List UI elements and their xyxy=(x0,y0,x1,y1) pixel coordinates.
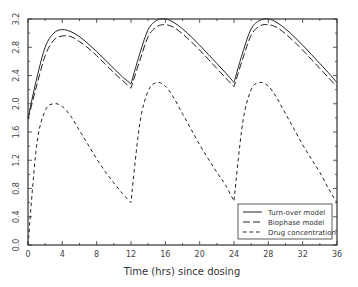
y-tick-label: 1.2 xyxy=(12,154,21,167)
y-tick-label: 2.4 xyxy=(12,69,21,82)
y-tick-label: 0.0 xyxy=(12,239,21,252)
x-tick-label: 16 xyxy=(160,250,170,259)
y-tick-label: 1.6 xyxy=(12,126,21,139)
legend-label: Turn-over model xyxy=(267,209,325,217)
y-tick-label: 3.2 xyxy=(12,13,21,26)
x-axis-title: Time (hrs) since dosing xyxy=(123,266,241,277)
y-tick-label: 2.8 xyxy=(12,41,21,54)
x-tick-label: 24 xyxy=(229,250,239,259)
x-tick-label: 12 xyxy=(126,250,136,259)
y-tick-label: 2.0 xyxy=(12,97,21,110)
x-tick-label: 36 xyxy=(332,250,342,259)
x-tick-label: 0 xyxy=(25,250,30,259)
x-tick-label: 28 xyxy=(263,250,273,259)
y-tick-label: 0.4 xyxy=(12,210,21,223)
series-biophase-model xyxy=(28,25,337,120)
series-turn-over-model xyxy=(28,19,337,118)
x-tick-label: 20 xyxy=(195,250,205,259)
legend-label: Biophase model xyxy=(268,219,324,227)
y-tick-label: 0.8 xyxy=(12,182,21,195)
x-tick-label: 4 xyxy=(60,250,65,259)
legend-label: Drug concentration xyxy=(268,229,336,237)
legend: Turn-over modelBiophase modelDrug concen… xyxy=(238,204,336,239)
x-tick-label: 8 xyxy=(94,250,99,259)
line-chart: 048121620242832360.00.40.81.21.62.02.42.… xyxy=(0,0,358,287)
x-tick-label: 32 xyxy=(298,250,308,259)
